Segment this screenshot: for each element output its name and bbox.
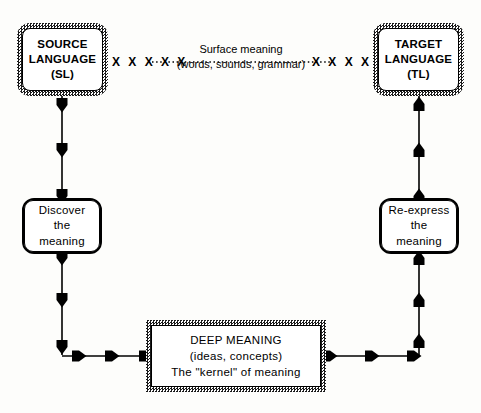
source-language-line3: (SL) — [51, 67, 74, 82]
reexpress-line2: the — [411, 218, 428, 234]
node-reexpress-meaning[interactable]: Re-express the meaning — [379, 198, 459, 254]
arrowhead-right — [72, 351, 87, 362]
arrowhead-down — [57, 340, 68, 355]
target-language-line1: TARGET — [395, 37, 443, 52]
node-target-language-inner: TARGET LANGUAGE (TL) — [378, 28, 459, 91]
target-language-line3: (TL) — [407, 67, 430, 82]
arrowhead-down — [57, 293, 68, 308]
node-discover-meaning[interactable]: Discover the meaning — [22, 198, 102, 254]
surface-meaning-caption: Surface meaning (words, sounds, grammar) — [150, 42, 332, 72]
node-deep-meaning[interactable]: DEEP MEANING (ideas, concepts) The "kern… — [146, 320, 326, 392]
arrowhead-right — [365, 351, 380, 362]
reexpress-line1: Re-express — [389, 203, 450, 219]
discover-line2: the — [54, 218, 71, 234]
discover-line1: Discover — [39, 203, 85, 219]
arrowhead-down — [57, 143, 68, 158]
node-source-language-inner: SOURCE LANGUAGE (SL) — [22, 28, 103, 91]
node-discover-meaning-inner: Discover the meaning — [24, 200, 100, 252]
surface-meaning-caption-line1: Surface meaning — [150, 42, 332, 57]
node-source-language[interactable]: SOURCE LANGUAGE (SL) — [17, 23, 108, 96]
target-language-line2: LANGUAGE — [385, 52, 452, 67]
discover-line3: meaning — [39, 234, 85, 250]
deep-meaning-line3: The "kernel" of meaning — [171, 364, 301, 380]
node-reexpress-meaning-inner: Re-express the meaning — [381, 200, 457, 252]
source-language-line2: LANGUAGE — [29, 52, 96, 67]
node-target-language[interactable]: TARGET LANGUAGE (TL) — [373, 23, 464, 96]
arrowhead-up — [414, 334, 425, 349]
arrowhead-down — [57, 98, 68, 113]
arrowhead-up — [414, 143, 425, 158]
deep-meaning-line2: (ideas, concepts) — [190, 348, 283, 364]
diagram-canvas: X X X X X X X X X X Surface meaning (wor… — [0, 0, 481, 413]
surface-meaning-caption-line2: (words, sounds, grammar) — [150, 57, 332, 72]
arrowhead-right — [105, 351, 120, 362]
source-language-line1: SOURCE — [37, 37, 87, 52]
arrowhead-up — [414, 97, 425, 112]
reexpress-line3: meaning — [396, 234, 442, 250]
deep-meaning-line1: DEEP MEANING — [190, 332, 282, 348]
arrowhead-up — [414, 293, 425, 308]
node-deep-meaning-inner: DEEP MEANING (ideas, concepts) The "kern… — [151, 325, 321, 387]
